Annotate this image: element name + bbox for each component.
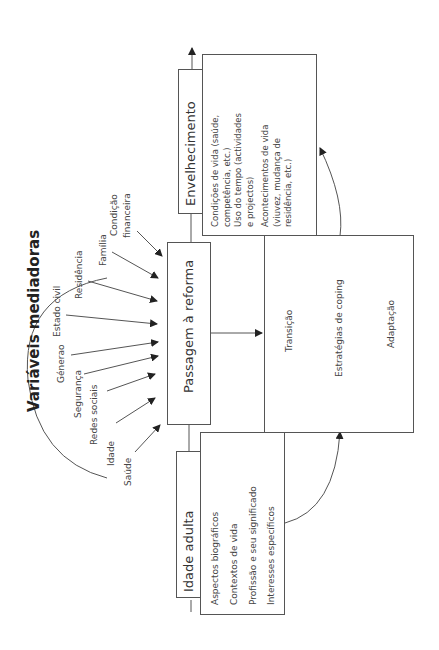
envelhecimento-line: e projectos) (245, 113, 257, 227)
mediator-condicao-financeira-1: Condição (110, 194, 119, 236)
idade-adulta-title: Idade adulta (182, 510, 195, 592)
mediator-residencia: Residência (75, 251, 84, 300)
idade-adulta-item: Interesses específicos (267, 506, 276, 605)
mediator-redes-sociais: Redes sociais (90, 384, 99, 445)
idade-adulta-item: Aspectos biográficos (211, 512, 220, 605)
adaptation-label: Adaptação (387, 300, 396, 348)
transition-box: Transição Estratégias de coping Adaptaçã… (264, 235, 414, 433)
coping-strategies-label: Estratégias de coping (335, 279, 344, 377)
mediator-condicao-financeira-2: financeira (123, 193, 132, 238)
envelhecimento-line: Uso do tempo (actividades (233, 113, 245, 227)
envelhecimento-content: Condições de vida (saúde, competência, e… (210, 113, 295, 227)
mediator-seguranca: Segurança (74, 370, 83, 418)
envelhecimento-content-box: Condições de vida (saúde, competência, e… (202, 54, 317, 236)
passagem-reforma-box: Passagem à reforma (167, 242, 211, 425)
idade-adulta-item: Contextos de vida (230, 524, 239, 605)
mediator-idade: Idade (107, 441, 116, 466)
mediator-familia: Família (99, 234, 108, 266)
envelhecimento-line: Acontecimentos de vida (260, 113, 272, 227)
envelhecimento-title-box: Envelhecimento (178, 69, 203, 214)
transition-label: Transição (285, 310, 294, 352)
envelhecimento-title: Envelhecimento (184, 101, 197, 206)
envelhecimento-line: competência, etc.) (222, 113, 234, 227)
envelhecimento-line: residência, etc.) (283, 113, 295, 227)
envelhecimento-line: (viuvez, mudança de (272, 113, 284, 227)
idade-adulta-title-box: Idade adulta (176, 451, 201, 598)
mediator-genero: Génerao (57, 345, 66, 383)
mediator-saude: Saúde (124, 458, 133, 486)
idade-adulta-item: Profissão e seu significado (249, 486, 258, 605)
mediators-heading: Variáveis mediadoras (27, 230, 42, 412)
envelhecimento-line: Condições de vida (saúde, (210, 113, 222, 227)
idade-adulta-content-box: Aspectos biográficos Contextos de vida P… (200, 432, 285, 615)
passagem-reforma-title: Passagem à reforma (182, 260, 195, 393)
mediator-estado-civil: Estado civil (53, 286, 62, 337)
